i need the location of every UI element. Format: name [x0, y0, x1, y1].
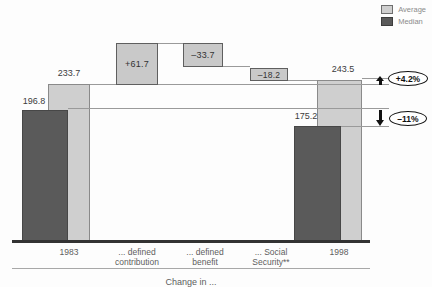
waterfall-box-social-security: –18.2 — [250, 68, 288, 81]
tick-defined-contribution-line2: contribution — [98, 257, 176, 267]
waterfall-box-defined-contribution: +61.7 — [116, 43, 158, 85]
legend-label-average: Average — [398, 5, 426, 14]
tick-1983-line1: 1983 — [30, 247, 108, 257]
step-label-social-security: –18.2 — [258, 70, 280, 80]
legend-item-average: Average — [381, 5, 426, 14]
value-label-1983-median: 196.8 — [9, 96, 59, 106]
tick-social-security: ... Social Security** — [232, 247, 310, 267]
bar-1983-median — [22, 110, 68, 241]
legend-label-median: Median — [398, 17, 423, 26]
tick-1998-line1: 1998 — [300, 247, 378, 257]
value-label-1983-average: 233.7 — [44, 68, 94, 78]
average-swatch-icon — [381, 5, 393, 14]
median-swatch-icon — [381, 17, 393, 26]
tick-1983: 1983 — [30, 247, 108, 257]
percent-label-average: +4.2% — [396, 74, 420, 84]
bar-1998-median — [294, 126, 341, 241]
connector-mid-line — [223, 66, 250, 67]
step-label-defined-contribution: +61.7 — [125, 59, 149, 69]
percent-badge-average: +4.2% — [388, 71, 428, 86]
waterfall-box-defined-benefit: –33.7 — [183, 43, 223, 67]
down-arrow-icon — [376, 110, 385, 126]
legend-item-median: Median — [381, 17, 426, 26]
percent-label-median: –11% — [397, 114, 418, 124]
percent-badge-median: –11% — [389, 111, 427, 126]
value-label-1998-average: 243.5 — [318, 64, 368, 74]
x-axis-underline — [12, 268, 370, 269]
legend: Average Median — [381, 5, 426, 29]
median-1998-level-line — [341, 126, 389, 127]
median-1983-level-line — [68, 108, 389, 109]
connector-low-line — [288, 80, 317, 81]
tick-1998: 1998 — [300, 247, 378, 257]
up-arrow-icon — [376, 76, 385, 85]
axis-caption: Change in ... — [12, 277, 370, 287]
connector-top-line — [158, 43, 183, 44]
x-axis-line — [12, 240, 370, 243]
waterfall-chart: Average Median +61.7 –33.7 –18.2 233.7 1… — [0, 0, 432, 287]
value-label-1998-median: 175.2 — [281, 111, 331, 121]
tick-social-security-line2: Security** — [232, 257, 310, 267]
step-label-defined-benefit: –33.7 — [191, 50, 215, 60]
tick-social-security-line1: ... Social — [232, 247, 310, 257]
tick-defined-contribution-line1: ... defined — [98, 247, 176, 257]
tick-defined-contribution: ... defined contribution — [98, 247, 176, 267]
